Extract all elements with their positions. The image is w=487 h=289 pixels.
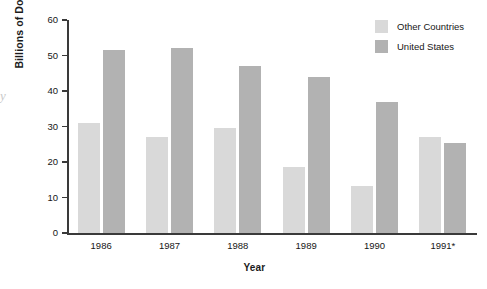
x-tick-label-1990: 1990 [350, 240, 400, 251]
y-tick-label-wrap: 0 [36, 228, 58, 238]
bar-1986-other-countries [78, 123, 100, 233]
legend-label: United States [397, 41, 454, 52]
bar-1988-other-countries [214, 128, 236, 233]
x-tick-label-1987: 1987 [145, 240, 195, 251]
bar-1990-other-countries [351, 186, 373, 233]
x-tick-label-1989: 1989 [281, 240, 331, 251]
bar-1986-united-states [103, 50, 125, 233]
chart-legend: Other CountriesUnited States [375, 18, 464, 58]
bar-1987-united-states [171, 48, 193, 233]
bar-1991-other-countries [419, 137, 441, 233]
bar-chart: y Billions of Dollars 0102030405060 1986… [0, 0, 487, 289]
y-tick-label-wrap: 60 [36, 15, 58, 25]
y-tick-label: 30 [36, 122, 58, 132]
y-tick-label: 50 [36, 51, 58, 61]
bar-1988-united-states [239, 66, 261, 233]
bar-1989-united-states [308, 77, 330, 233]
bar-1989-other-countries [283, 167, 305, 233]
y-tick-label: 40 [36, 86, 58, 96]
x-axis-title-wrap: Year [0, 262, 487, 273]
legend-item-united-states: United States [375, 38, 464, 54]
x-tick-label-1988: 1988 [213, 240, 263, 251]
y-tick-label-wrap: 20 [36, 157, 58, 167]
y-tick-label-wrap: 30 [36, 122, 58, 132]
bar-1991-united-states [444, 143, 466, 233]
legend-item-other-countries: Other Countries [375, 18, 464, 34]
y-tick-label-wrap: 50 [36, 51, 58, 61]
y-tick-label: 20 [36, 157, 58, 167]
bar-1987-other-countries [146, 137, 168, 233]
y-tick-label: 60 [36, 15, 58, 25]
x-tick-label-1991: 1991* [418, 240, 468, 251]
x-axis-title: Year [244, 262, 266, 273]
y-tick-label: 0 [36, 228, 58, 238]
x-axis-line [67, 233, 477, 235]
bar-1990-united-states [376, 102, 398, 233]
legend-swatch-icon [375, 20, 388, 33]
y-tick-label-wrap: 10 [36, 193, 58, 203]
y-tick-label-wrap: 40 [36, 86, 58, 96]
legend-swatch-icon [375, 40, 388, 53]
y-tick-label: 10 [36, 193, 58, 203]
legend-label: Other Countries [397, 21, 464, 32]
x-tick-label-1986: 1986 [76, 240, 126, 251]
page-edge-artifact: y [0, 88, 6, 104]
y-axis-title: Billions of Dollars [12, 0, 26, 88]
